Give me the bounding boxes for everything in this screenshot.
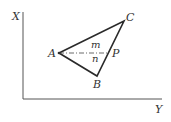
region-label-m: m — [91, 39, 100, 50]
region-label-n: n — [92, 53, 98, 64]
diagram-canvas: X Y A B C P m n — [0, 0, 171, 122]
axis-label-y: Y — [155, 103, 164, 116]
point-label-a: A — [47, 47, 56, 60]
point-a-dot — [58, 52, 60, 54]
point-label-c: C — [126, 11, 135, 24]
point-label-p: P — [111, 47, 120, 60]
triangle-diagram: X Y A B C P m n — [0, 0, 171, 122]
axis-label-x: X — [11, 10, 21, 23]
point-label-b: B — [92, 78, 101, 91]
